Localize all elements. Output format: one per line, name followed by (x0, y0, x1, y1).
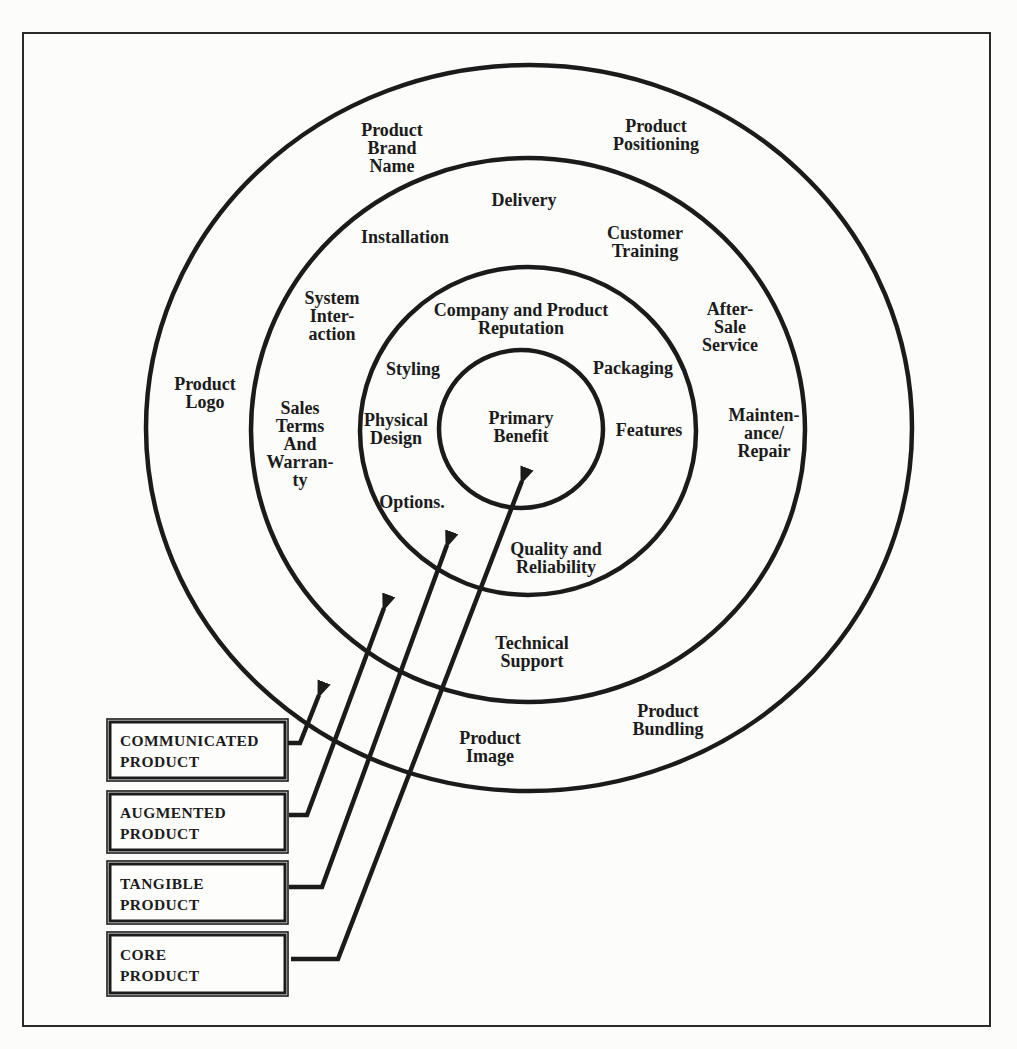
svg-text:Product: Product (174, 374, 236, 394)
svg-text:Company and Product: Company and Product (434, 300, 609, 320)
legend-augmented-product-box: AUGMENTED PRODUCT (107, 791, 288, 853)
label-quality-and-reliability: Quality and Reliability (510, 539, 602, 577)
svg-text:Design: Design (370, 428, 422, 448)
svg-text:Product: Product (637, 701, 699, 721)
label-maintenance-repair: Mainten- ance/ Repair (729, 405, 800, 461)
label-system-interaction: System Inter- action (305, 288, 360, 344)
svg-text:Delivery: Delivery (492, 190, 557, 210)
label-physical-design: Physical Design (364, 410, 428, 448)
legend-tangible-product-box: TANGIBLE PRODUCT (107, 861, 288, 924)
svg-text:System: System (305, 288, 360, 308)
svg-text:Mainten-: Mainten- (729, 405, 800, 425)
label-technical-support: Technical Support (495, 633, 568, 671)
label-options: Options. (379, 492, 445, 512)
label-styling: Styling (386, 359, 440, 379)
label-packaging: Packaging (593, 358, 673, 378)
label-product-image: Product Image (459, 728, 521, 766)
svg-text:PRODUCT: PRODUCT (120, 967, 200, 984)
diagram-canvas: Product Brand Name Product Positioning P… (0, 0, 1017, 1049)
label-product-brand-name: Product Brand Name (361, 120, 423, 176)
svg-text:Benefit: Benefit (494, 426, 549, 446)
svg-text:Name: Name (370, 156, 415, 176)
svg-text:Image: Image (466, 746, 514, 766)
svg-text:Sales: Sales (280, 398, 319, 418)
svg-text:TANGIBLE: TANGIBLE (120, 875, 204, 892)
legend-core-product-box: CORE PRODUCT (107, 932, 288, 996)
svg-text:Repair: Repair (738, 441, 791, 461)
svg-text:Training: Training (612, 241, 679, 261)
label-after-sale-service: After- Sale Service (702, 299, 758, 355)
svg-text:Installation: Installation (361, 227, 449, 247)
legend-communicated-product-box: COMMUNICATED PRODUCT (107, 719, 288, 781)
core-product-arrow (291, 481, 522, 959)
label-company-and-product-reputation: Company and Product Reputation (434, 300, 609, 338)
label-features: Features (616, 420, 683, 440)
label-sales-terms-and-warranty: Sales Terms And Warran- ty (267, 398, 334, 490)
svg-text:ty: ty (293, 470, 308, 490)
svg-text:Warran-: Warran- (267, 452, 334, 472)
svg-text:Product: Product (625, 116, 687, 136)
svg-text:Options.: Options. (379, 492, 445, 512)
svg-text:Product: Product (459, 728, 521, 748)
svg-text:Primary: Primary (489, 408, 554, 428)
svg-text:PRODUCT: PRODUCT (120, 896, 200, 913)
svg-text:Service: Service (702, 335, 758, 355)
svg-text:AUGMENTED: AUGMENTED (120, 804, 226, 821)
label-delivery: Delivery (492, 190, 557, 210)
svg-text:Reputation: Reputation (478, 318, 564, 338)
svg-text:Quality and: Quality and (510, 539, 602, 559)
svg-text:action: action (309, 324, 356, 344)
label-product-logo: Product Logo (174, 374, 236, 412)
svg-text:Support: Support (500, 651, 563, 671)
svg-text:PRODUCT: PRODUCT (120, 753, 200, 770)
svg-text:Technical: Technical (495, 633, 568, 653)
product-levels-diagram: Product Brand Name Product Positioning P… (0, 0, 1017, 1049)
svg-text:Features: Features (616, 420, 683, 440)
svg-text:Customer: Customer (607, 223, 683, 243)
svg-text:Reliability: Reliability (516, 557, 596, 577)
svg-text:Inter-: Inter- (310, 306, 354, 326)
svg-text:Physical: Physical (364, 410, 428, 430)
label-customer-training: Customer Training (607, 223, 683, 261)
svg-text:Product: Product (361, 120, 423, 140)
svg-text:Bundling: Bundling (632, 719, 703, 739)
svg-text:COMMUNICATED: COMMUNICATED (120, 732, 259, 749)
augmented-product-arrow (289, 608, 384, 815)
label-product-positioning: Product Positioning (613, 116, 699, 154)
svg-text:Styling: Styling (386, 359, 440, 379)
svg-text:PRODUCT: PRODUCT (120, 825, 200, 842)
svg-text:After-: After- (707, 299, 753, 319)
svg-text:Logo: Logo (185, 392, 224, 412)
svg-text:CORE: CORE (120, 946, 166, 963)
svg-text:Packaging: Packaging (593, 358, 673, 378)
svg-text:Brand: Brand (367, 138, 416, 158)
svg-text:Positioning: Positioning (613, 134, 699, 154)
svg-text:Terms: Terms (276, 416, 324, 436)
svg-text:Sale: Sale (714, 317, 746, 337)
svg-text:ance/: ance/ (744, 423, 785, 443)
label-product-bundling: Product Bundling (632, 701, 703, 739)
label-primary-benefit: Primary Benefit (489, 408, 554, 446)
label-installation: Installation (361, 227, 449, 247)
svg-text:And: And (283, 434, 316, 454)
